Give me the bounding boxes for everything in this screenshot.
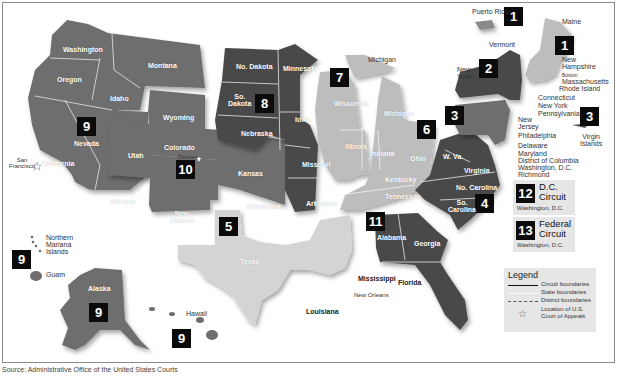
label-so-dakota: So. Dakota [228,93,251,107]
dc-circuit-name: D.C. Circuit [539,182,566,202]
circuit-9-badge: 9 [77,117,96,136]
label-illinois: Illinois [345,143,367,150]
label-oklahoma: Oklahoma [247,203,281,210]
label-texas: Texas [240,258,259,265]
label-district-of-columbia: District of Columbia [518,157,579,164]
label-philadelphia: Philadelphia [518,132,556,139]
label-vermont: Vermont [489,41,515,48]
label-california: California [42,160,74,167]
label-mississippi: Mississippi [358,275,396,282]
circuit-11-badge: 11 [366,212,385,231]
label-new-jersey: New Jersey [518,116,539,130]
dc-circuit-location: Washington, D.C. [517,205,564,211]
circuit-11-region [375,213,468,330]
label-maryland: Maryland [518,150,547,157]
label-new-york-top: New York [457,66,471,80]
circuit-9-badge-guam: 9 [12,250,31,269]
label-no-dakota: No. Dakota [236,63,273,70]
label-michigan: Michigan [384,110,414,117]
circuit-6-badge: 6 [417,120,436,139]
label-virginia: Virginia [464,167,490,174]
legend-district-label: District boundaries [541,297,591,303]
label-maine: Maine [562,18,581,25]
circuit-5-badge: 5 [219,217,238,236]
star-icon: ☆ [518,308,527,319]
label-nebraska: Nebraska [241,130,273,137]
circuit-1-badge: 1 [555,36,574,55]
circuit-12-badge: 12 [516,184,535,203]
label-indiana: Indiana [370,150,395,157]
label-denver: Denver [178,154,197,160]
label-georgia: Georgia [414,240,440,247]
label-alabama: Alabama [377,234,406,241]
label-northern-mariana: Northern Mariana Islands [46,234,73,255]
circuit-4-badge: 4 [475,194,494,213]
label-michigan-up: Michigan [368,56,396,63]
label-montana: Montana [148,62,177,69]
label-oregon: Oregon [57,76,82,83]
label-missouri: Missouri [302,161,331,168]
label-connecticut: Connecticut [538,94,575,101]
label-wisconsin: Wisconsin [334,100,369,107]
label-w-va: W. Va. [443,153,463,160]
label-arizona: Arizona [110,198,136,205]
label-pennsylvania: Pennsylvania [538,110,580,117]
label-rhode-island: Rhode Island [559,85,600,92]
dc-circuit-panel: 12 D.C. Circuit Washington, D.C. [513,180,575,215]
label-iowa: Iowa [295,116,311,123]
label-kentucky: Kentucky [385,176,417,183]
label-new-hampshire: New Hampshire [562,56,596,70]
legend-state-line [508,293,538,294]
label-richmond: Richmond [518,171,550,178]
legend-circuit-line [508,285,538,286]
legend-district-line [508,301,538,302]
circuit-8-badge: 8 [255,94,274,113]
label-washington: Washington [63,46,103,53]
label-minnesota: Minnesota [283,65,318,72]
label-delaware: Delaware [518,142,548,149]
circuit-2-badge: 2 [479,59,498,78]
label-tennessee: Tennessee [385,193,421,200]
label-alaska: Alaska [88,285,111,292]
label-no-carolina: No. Carolina [456,184,497,191]
circuit-9-guam [30,236,42,281]
circuit-9-badge-alaska: 9 [89,303,108,322]
label-san-francisco: San Francisco [9,157,35,169]
federal-circuit-panel: 13 Federal Circuit Washington, D.C. [513,217,575,252]
label-colorado: Colorado [164,144,195,151]
label-utah: Utah [128,152,144,159]
label-new-orleans: New Orleans [354,292,389,298]
label-washington-dc: Washington, D.C. [518,164,573,171]
circuit-13-badge: 13 [516,221,535,240]
label-nevada: Nevada [74,140,99,147]
circuit-9-badge-hawaii: 9 [172,329,191,348]
federal-circuit-location: Washington, D.C. [517,242,564,248]
legend-title: Legend [508,270,538,280]
label-ohio: Ohio [410,155,426,162]
label-new-york: New York [538,102,568,109]
label-arkansas: Arkansas [306,200,338,207]
circuit-10-badge: 10 [176,160,195,179]
label-florida: Florida [398,279,421,286]
source-note: Source: Administrative Office of the Uni… [2,366,178,373]
legend-circuit-label: Circuit boundaries [541,281,589,287]
label-so-carolina: So. Carolina [448,199,476,213]
legend-star-label: Location of U.S. Court of Appeals [541,306,585,320]
label-kansas: Kansas [238,170,263,177]
legend-state-label: State boundaries [541,289,586,295]
circuit-3-badge-vi: 3 [580,107,599,126]
label-wyoming: Wyoming [163,114,194,121]
circuit-3-badge: 3 [445,106,464,125]
label-virgin-islands: Virgin Islands [580,133,602,147]
legend: Legend Circuit boundaries State boundari… [504,268,596,332]
label-guam: Guam [46,271,65,278]
label-puerto-rico: Puerto Rico [472,8,509,15]
label-idaho: Idaho [110,95,129,102]
label-louisiana: Louisiana [306,308,339,315]
federal-circuit-name: Federal Circuit [539,219,571,239]
label-new-mexico: New Mexico [170,210,194,224]
label-hawaii: Hawaii [186,310,207,317]
circuit-7-badge: 7 [330,68,349,87]
label-massachusetts: Massachusetts [562,78,609,85]
